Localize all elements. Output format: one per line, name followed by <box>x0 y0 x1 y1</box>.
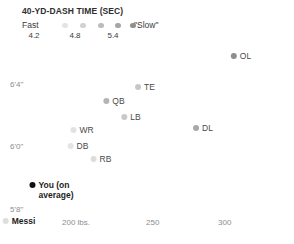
data-point-messi: Messi <box>3 216 36 226</box>
point-marker-icon <box>3 218 9 224</box>
data-point-rb: RB <box>91 154 112 164</box>
point-marker-icon <box>91 156 97 162</box>
plot-area: OLTEQBLBWRDLDBRBYou (on average)Messi6'4… <box>0 0 294 244</box>
y-axis-tick-2: 6'0" <box>10 142 23 151</box>
point-label: LB <box>130 112 140 122</box>
x-axis-tick-1: 200 lbs. <box>62 218 90 227</box>
point-marker-icon <box>103 98 109 104</box>
y-axis-tick-1: 6'4" <box>10 80 23 89</box>
point-label: OL <box>240 51 251 61</box>
data-point-you-on-average: You (on average) <box>30 180 83 200</box>
point-label: WR <box>79 125 93 135</box>
point-marker-icon <box>193 125 199 131</box>
x-axis-tick-2: 250 <box>146 218 159 227</box>
point-label: Messi <box>12 216 36 226</box>
point-marker-icon <box>30 182 36 188</box>
data-point-qb: QB <box>103 96 124 106</box>
point-marker-icon <box>231 53 237 59</box>
point-marker-icon <box>121 114 127 120</box>
data-point-wr: WR <box>70 125 93 135</box>
point-label: DB <box>77 141 89 151</box>
x-axis-tick-3: 300 <box>218 218 231 227</box>
point-marker-icon <box>68 143 74 149</box>
data-point-db: DB <box>68 141 89 151</box>
scatter-chart: 40-YD-DASH TIME (SEC) Fast "Slow" 4.24.8… <box>0 0 294 244</box>
point-marker-icon <box>70 127 76 133</box>
y-axis-tick-3: 5'8" <box>10 205 23 214</box>
point-marker-icon <box>135 84 141 90</box>
point-label: QB <box>112 96 124 106</box>
point-label: DL <box>202 123 213 133</box>
point-label: RB <box>100 154 112 164</box>
data-point-dl: DL <box>193 123 213 133</box>
data-point-te: TE <box>135 82 155 92</box>
data-point-lb: LB <box>121 112 140 122</box>
point-label: TE <box>144 82 155 92</box>
data-point-ol: OL <box>231 51 251 61</box>
point-label: You (on average) <box>39 180 83 200</box>
